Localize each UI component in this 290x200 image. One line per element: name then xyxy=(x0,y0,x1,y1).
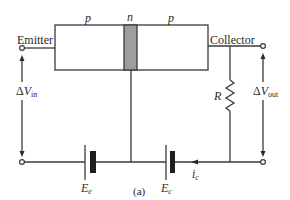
current-ic-arrowhead xyxy=(191,160,198,165)
delta-vout-arrowhead-down xyxy=(261,151,266,157)
region-label-emitter-p: p xyxy=(85,12,91,24)
delta-vin-label: ΔVin xyxy=(16,85,37,99)
emitter-label: Emitter xyxy=(17,34,53,46)
collector-label: Collector xyxy=(210,34,255,46)
resistor-zigzag xyxy=(226,80,234,111)
delta-vin-subscript: in xyxy=(31,90,37,99)
delta-vout-prefix: Δ xyxy=(253,84,261,98)
battery-emitter-subscript: e xyxy=(88,187,92,196)
battery-emitter-short-plate xyxy=(90,151,96,173)
delta-vout-label: ΔVout xyxy=(253,85,278,99)
input-ground-terminal xyxy=(20,160,25,165)
delta-vout-symbol: V xyxy=(261,84,268,98)
delta-vin-arrowhead-down xyxy=(20,151,25,157)
region-label-base-n: n xyxy=(127,11,133,23)
delta-vin-arrowhead-up xyxy=(20,55,25,61)
delta-vout-subscript: out xyxy=(268,90,278,99)
collector-terminal xyxy=(261,44,266,49)
battery-emitter-label: Ee xyxy=(81,182,92,196)
battery-collector-subscript: c xyxy=(168,187,172,196)
figure-caption: (a) xyxy=(133,186,145,197)
battery-collector-short-plate xyxy=(170,151,175,173)
delta-vout-arrowhead-up xyxy=(261,53,266,59)
current-ic-subscript: c xyxy=(195,173,199,182)
region-label-collector-p: p xyxy=(168,12,174,24)
base-n-region xyxy=(124,25,137,70)
current-ic-label: ic xyxy=(192,168,199,182)
resistor-label: R xyxy=(214,90,221,102)
pnp-transistor-circuit-diagram: p n p Emitter Collector ΔVin ΔVout R Ee … xyxy=(0,0,290,200)
delta-vin-symbol: V xyxy=(24,84,31,98)
delta-vin-prefix: Δ xyxy=(16,84,24,98)
circuit-drawing xyxy=(0,0,290,200)
battery-collector-label: Ec xyxy=(161,182,172,196)
output-ground-terminal xyxy=(261,160,266,165)
